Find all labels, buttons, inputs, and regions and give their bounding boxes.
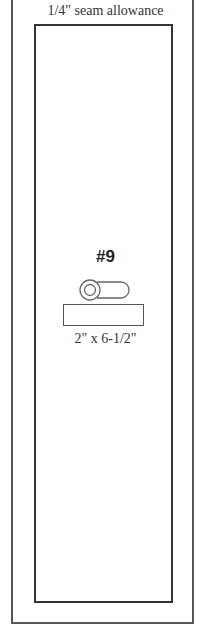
grain-direction-icon: [75, 275, 135, 305]
seam-allowance-label: 1/4" seam allowance: [0, 3, 211, 19]
piece-dimensions: 2" x 6-1/2": [0, 331, 211, 347]
piece-number: #9: [0, 247, 211, 267]
piece-shape: [63, 304, 144, 326]
